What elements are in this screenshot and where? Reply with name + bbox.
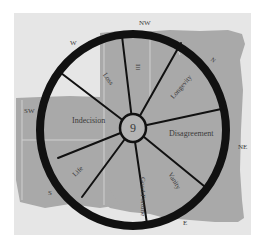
compass-e: E: [183, 219, 187, 227]
compass-nw: NW: [139, 19, 151, 27]
hub-number: 9: [130, 121, 136, 135]
segment-ill: Ill: [134, 64, 142, 70]
compass-sw: SW: [24, 107, 35, 115]
wheel-diagram: 9 W NW N NE E S SW Loss Ill Longevity In…: [0, 0, 265, 246]
segment-good-fortune: Good Fortune: [139, 177, 147, 216]
segment-indecision: Indecision: [72, 116, 105, 125]
compass-ne: NE: [238, 143, 247, 151]
compass-w: W: [70, 39, 77, 47]
segment-disagreement: Disagreement: [169, 129, 214, 138]
compass-s: S: [48, 189, 52, 197]
